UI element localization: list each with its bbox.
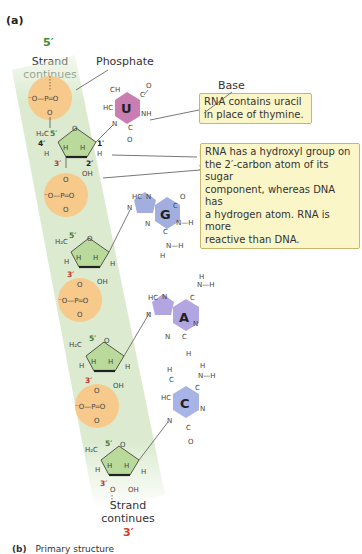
phosphate-group-2: O ⁻O—P═O O xyxy=(44,173,88,217)
svg-text:⁻O—P═O: ⁻O—P═O xyxy=(44,192,75,200)
svg-text:C: C xyxy=(190,294,195,302)
svg-text:HC: HC xyxy=(103,104,113,112)
svg-text:H: H xyxy=(125,363,130,371)
svg-text:O: O xyxy=(180,193,186,201)
svg-text:H₂C: H₂C xyxy=(36,130,49,138)
svg-text:O: O xyxy=(94,417,100,425)
svg-text:N: N xyxy=(112,120,117,128)
svg-text:5′: 5′ xyxy=(105,439,112,448)
svg-text:⁻O—P═O: ⁻O—P═O xyxy=(75,403,106,411)
panel-b-label: (b) xyxy=(12,544,27,554)
svg-text:OH: OH xyxy=(113,382,124,390)
svg-text:N—H: N—H xyxy=(166,242,184,250)
svg-text:H: H xyxy=(199,273,204,281)
svg-text:OH: OH xyxy=(82,170,93,178)
svg-text:3′: 3′ xyxy=(54,159,61,168)
svg-text:N—H: N—H xyxy=(198,372,216,380)
svg-text:O: O xyxy=(94,387,100,395)
strand-bottom-line1: Strand xyxy=(98,499,158,512)
svg-text:5′: 5′ xyxy=(69,231,76,240)
base-letter-g: G xyxy=(160,207,171,222)
svg-text:H: H xyxy=(95,466,100,474)
base-letter-u: U xyxy=(121,101,132,116)
svg-text:HC: HC xyxy=(161,394,171,402)
svg-text:C: C xyxy=(163,228,168,236)
leader-lines xyxy=(76,70,232,178)
svg-text:NH: NH xyxy=(141,110,152,118)
svg-text:3′: 3′ xyxy=(85,376,92,385)
adenine-base: A HC N N C N—H H N N C H xyxy=(146,273,215,358)
svg-text:H: H xyxy=(167,366,172,374)
svg-text:HC: HC xyxy=(148,294,158,302)
svg-text:OH: OH xyxy=(97,278,108,286)
svg-text:O: O xyxy=(63,206,69,214)
panel-b-title: Primary structure xyxy=(36,544,114,554)
svg-text:OH: OH xyxy=(128,486,139,494)
svg-text:H: H xyxy=(108,358,113,366)
svg-text:⁻O—P═O: ⁻O—P═O xyxy=(58,297,89,305)
svg-text:HC: HC xyxy=(132,193,142,201)
svg-text:H₂C: H₂C xyxy=(55,238,68,246)
svg-text:⁻O—P═O: ⁻O—P═O xyxy=(28,95,59,103)
svg-text:H₂C: H₂C xyxy=(85,446,98,454)
svg-text:N: N xyxy=(146,311,151,319)
svg-text:H: H xyxy=(79,362,84,370)
svg-text:CH: CH xyxy=(110,86,120,94)
svg-text:H: H xyxy=(64,258,69,266)
svg-text:C: C xyxy=(169,376,174,384)
svg-text:H: H xyxy=(160,252,165,260)
svg-text:N—H: N—H xyxy=(176,219,194,227)
svg-text:H: H xyxy=(200,362,205,370)
svg-text:3′: 3′ xyxy=(100,479,107,488)
svg-text:H: H xyxy=(107,462,112,470)
guanine-base: G HC N N C O N—H N C N—H H xyxy=(127,192,194,260)
svg-text:H: H xyxy=(91,358,96,366)
svg-text:O: O xyxy=(72,125,78,133)
svg-text:O: O xyxy=(63,176,69,184)
svg-text:C: C xyxy=(186,424,191,432)
svg-text:N: N xyxy=(162,293,167,301)
svg-text:O: O xyxy=(104,337,110,345)
svg-text:O: O xyxy=(47,109,53,117)
strand-bottom-line2: continues xyxy=(98,512,158,525)
svg-text:O: O xyxy=(77,281,83,289)
svg-text:H: H xyxy=(80,144,85,152)
svg-text:5′: 5′ xyxy=(50,129,57,138)
base-letter-a: A xyxy=(179,310,189,325)
svg-text:H: H xyxy=(141,468,146,476)
svg-text:H₂C: H₂C xyxy=(69,341,82,349)
svg-text:C: C xyxy=(128,124,133,132)
svg-text:O: O xyxy=(127,136,133,144)
svg-text:H: H xyxy=(110,260,115,268)
svg-text:O: O xyxy=(110,486,116,494)
svg-text:N: N xyxy=(146,193,151,201)
strand-continues-bottom: Strand continues xyxy=(98,499,158,525)
svg-text:H: H xyxy=(44,150,49,158)
cytosine-base: C C H C N—H H HC N N C O xyxy=(161,362,216,446)
svg-text:H: H xyxy=(63,144,68,152)
svg-text:C: C xyxy=(173,202,178,210)
svg-text:N: N xyxy=(145,220,150,228)
svg-text:N: N xyxy=(200,405,205,413)
svg-text:N—H: N—H xyxy=(197,281,215,289)
svg-text:N: N xyxy=(193,320,198,328)
three-prime-label: 3′ xyxy=(123,526,134,539)
svg-text:H: H xyxy=(97,150,102,158)
base-letter-c: C xyxy=(180,396,190,411)
svg-text:C: C xyxy=(195,384,200,392)
svg-text:O: O xyxy=(188,438,194,446)
svg-text:O: O xyxy=(77,311,83,319)
panel-b-caption: (b) Primary structure xyxy=(12,544,114,554)
uracil-base: U CH C O HC NH N C O xyxy=(103,82,152,144)
svg-text:O: O xyxy=(146,82,152,90)
phosphate-group-3: O ⁻O—P═O O xyxy=(58,278,102,322)
svg-text:N: N xyxy=(165,333,170,341)
svg-text:O: O xyxy=(87,235,93,243)
svg-text:N: N xyxy=(127,204,132,212)
svg-text:5′: 5′ xyxy=(89,334,96,343)
svg-text:H: H xyxy=(76,254,81,262)
svg-text:O: O xyxy=(120,441,126,449)
svg-text:2′: 2′ xyxy=(86,159,93,168)
svg-text:3′: 3′ xyxy=(67,270,74,279)
